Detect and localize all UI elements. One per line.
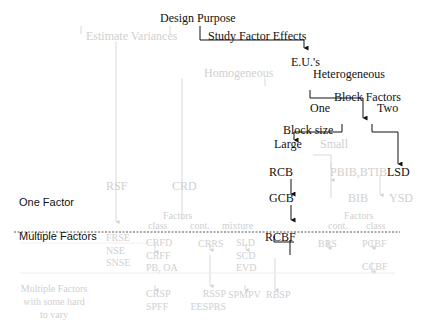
row-label-hard-line-2: with some hard: [18, 295, 90, 308]
design-sld: SLD: [236, 237, 257, 250]
mixture-multi-col: SLD SCD EVD: [236, 237, 257, 275]
design-rcb: RCB: [269, 166, 293, 179]
design-bib: BIB: [348, 192, 368, 205]
design-crrs: CRRS: [198, 237, 224, 250]
node-block-size: Block size: [283, 124, 333, 137]
connector-lines: [0, 0, 432, 325]
node-two-blocks: Two: [377, 102, 398, 115]
design-crff: CRFF: [146, 250, 178, 263]
design-rssp: RSSP: [188, 288, 226, 301]
design-snse: SNSE: [106, 257, 130, 270]
row-label-hard-line-3: to vary: [18, 308, 90, 321]
design-evd: EVD: [236, 262, 257, 275]
row-label-hard-line-1: Multiple Factors: [18, 282, 90, 295]
node-one-block: One: [310, 102, 330, 115]
hard-cont-col: RSSP EESPRS: [188, 288, 226, 313]
class-multi-col: CRFD CRFF PB, OA: [146, 237, 178, 275]
design-rsf: RSF: [106, 180, 127, 193]
design-rcbf: RCBF: [265, 231, 296, 244]
design-pbib-btib: PBIB,BTIB: [330, 166, 387, 179]
design-pcbf: PCBF: [362, 237, 386, 250]
row-label-hard-to-vary: Multiple Factors with some hard to vary: [18, 282, 90, 321]
node-large: Large: [274, 138, 302, 151]
block-factors-cont: cont.: [328, 219, 348, 232]
node-homogeneous: Homogeneous: [204, 67, 273, 80]
node-design-purpose: Design Purpose: [160, 12, 236, 25]
node-study-factor-effects: Study Factor Effects: [208, 30, 306, 43]
node-estimate-variances: Estimate Variances: [86, 30, 177, 43]
design-frse: FRSE: [106, 232, 130, 245]
design-scd: SCD: [236, 250, 257, 263]
row-label-one-factor: One Factor: [19, 196, 74, 209]
crd-factors-cont: cont.: [190, 219, 210, 232]
design-crfd: CRFD: [146, 237, 178, 250]
design-gcb: GCB: [269, 192, 294, 205]
design-spff: SPFF: [146, 301, 170, 314]
design-pb-oa: PB, OA: [146, 262, 178, 275]
design-lsd: LSD: [387, 166, 410, 179]
design-spmpv: SPMPV: [228, 288, 261, 301]
design-ysd: YSD: [389, 192, 413, 205]
design-crd: CRD: [172, 180, 197, 193]
node-heterogeneous: Heterogeneous: [313, 68, 385, 81]
block-factors-class: class: [366, 219, 385, 232]
rsf-multi-col: FRSE NSE SNSE: [106, 232, 130, 270]
design-nse: NSE: [106, 245, 130, 258]
crd-factors-class: class: [148, 219, 167, 232]
design-ccbf: CCBF: [362, 260, 388, 273]
node-small: Small: [320, 138, 348, 151]
row-label-multiple-factors: Multiple Factors: [19, 230, 97, 243]
design-crsp: CRSP: [146, 288, 170, 301]
hard-class-col: CRSP SPFF: [146, 288, 170, 313]
crd-factors-mixture: mixture: [222, 219, 253, 232]
design-rbsp: RBSP: [266, 288, 290, 301]
design-brs: BRS: [318, 237, 337, 250]
design-eesprs: EESPRS: [188, 301, 226, 314]
